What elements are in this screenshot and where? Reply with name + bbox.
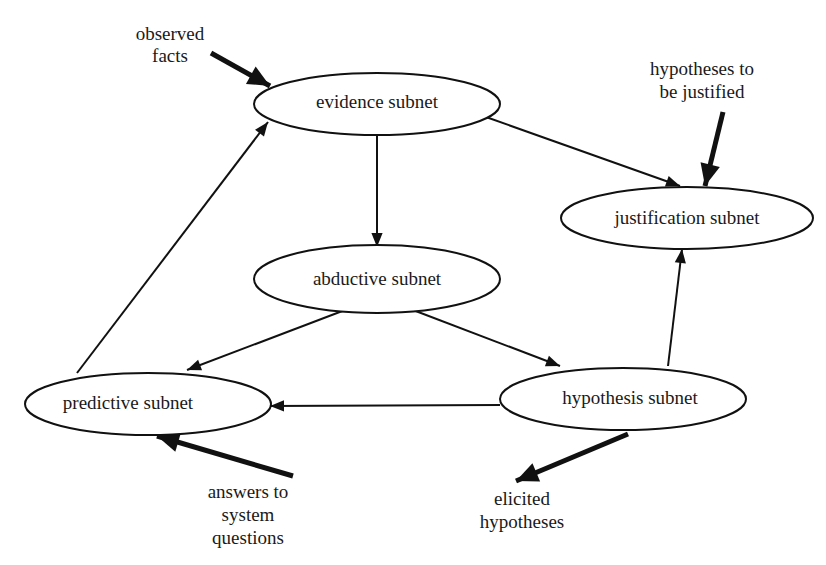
node-label: abductive subnet — [313, 268, 442, 289]
input-arrow-hypotheses-to-be-justified — [705, 112, 723, 186]
label-elicited-hypotheses: elicited hypotheses — [480, 488, 564, 532]
node-label: predictive subnet — [63, 392, 194, 413]
edge-abductive-to-predictive — [187, 310, 345, 370]
label-line: hypotheses — [480, 511, 564, 532]
label-line: questions — [212, 527, 284, 548]
edge-hypothesis-to-predictive — [270, 405, 500, 406]
node-label: evidence subnet — [316, 91, 439, 112]
label-line: elicited — [494, 488, 550, 509]
edge-predictive-to-evidence — [77, 122, 268, 373]
node-evidence-subnet: evidence subnet — [254, 73, 500, 135]
input-arrow-answers-to-system-questions — [157, 436, 293, 476]
node-label: justification subnet — [613, 207, 760, 228]
label-hypotheses-to-be-justified: hypotheses to be justified — [650, 58, 754, 102]
label-observed-facts: observed facts — [136, 23, 205, 66]
edge-hypothesis-to-justification — [668, 249, 682, 366]
subnet-architecture-diagram: evidence subnet abductive subnet justifi… — [0, 0, 826, 565]
input-arrow-observed-facts — [211, 53, 270, 86]
label-line: observed — [136, 23, 205, 44]
edge-justification-evidence-bidirectional — [486, 117, 680, 186]
node-justification-subnet: justification subnet — [561, 187, 813, 249]
label-line: system — [222, 504, 275, 525]
node-predictive-subnet: predictive subnet — [25, 373, 271, 435]
node-abductive-subnet: abductive subnet — [254, 245, 500, 313]
label-line: hypotheses to — [650, 58, 754, 79]
edge-abductive-to-hypothesis — [413, 310, 560, 366]
node-label: hypothesis subnet — [562, 387, 698, 408]
label-line: be justified — [660, 81, 745, 102]
label-line: answers to — [208, 481, 289, 502]
label-answers-to-system-questions: answers to system questions — [208, 481, 289, 548]
label-line: facts — [152, 45, 188, 66]
node-hypothesis-subnet: hypothesis subnet — [500, 368, 746, 430]
output-arrow-elicited-hypotheses — [516, 434, 628, 481]
